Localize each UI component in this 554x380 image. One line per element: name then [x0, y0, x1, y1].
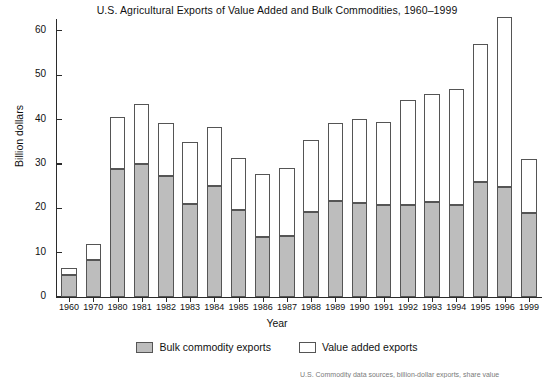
x-axis-line	[56, 297, 542, 298]
bar-segment-bulk-commodity[interactable]	[182, 204, 197, 297]
bar-segment-bulk-commodity[interactable]	[158, 176, 173, 297]
bar-group[interactable]	[424, 94, 439, 297]
legend-label: Bulk commodity exports	[159, 341, 270, 353]
bar-group[interactable]	[86, 244, 101, 297]
bar-segment-bulk-commodity[interactable]	[231, 210, 246, 297]
x-tick-label: 1985	[226, 302, 252, 312]
bar-segment-value-added[interactable]	[207, 127, 222, 186]
bar-segment-bulk-commodity[interactable]	[352, 203, 367, 297]
bar-segment-bulk-commodity[interactable]	[255, 237, 270, 297]
bar-segment-bulk-commodity[interactable]	[424, 202, 439, 297]
bar-segment-value-added[interactable]	[449, 89, 464, 205]
x-tick-label: 1981	[129, 302, 155, 312]
bar-segment-value-added[interactable]	[279, 168, 294, 236]
y-tick-label: 20	[0, 201, 46, 212]
bar-group[interactable]	[207, 127, 222, 297]
x-tick-label: 1983	[177, 302, 203, 312]
legend-swatch-value-added-icon	[299, 342, 316, 353]
bar-segment-bulk-commodity[interactable]	[449, 205, 464, 297]
source-note: U.S. Commodity data sources, billion-dol…	[300, 371, 554, 378]
bar-segment-value-added[interactable]	[86, 244, 101, 260]
bar-group[interactable]	[279, 168, 294, 297]
bar-segment-value-added[interactable]	[328, 123, 343, 201]
bar-group[interactable]	[376, 122, 391, 297]
x-tick-label: 1960	[56, 302, 82, 312]
chart-title: U.S. Agricultural Exports of Value Added…	[0, 4, 554, 16]
bar-group[interactable]	[497, 17, 512, 297]
bar-group[interactable]	[255, 174, 270, 297]
y-tick-label: 50	[0, 68, 46, 79]
chart-legend: Bulk commodity exportsValue added export…	[0, 341, 554, 353]
y-tick-label: 60	[0, 24, 46, 35]
bar-segment-value-added[interactable]	[61, 268, 76, 275]
plot-area	[57, 22, 541, 297]
x-tick-label: 1999	[516, 302, 542, 312]
bar-group[interactable]	[303, 140, 318, 297]
x-axis-title: Year	[0, 317, 554, 329]
bar-segment-value-added[interactable]	[473, 44, 488, 182]
bar-segment-bulk-commodity[interactable]	[303, 212, 318, 297]
legend-item[interactable]: Value added exports	[299, 341, 418, 353]
bar-segment-value-added[interactable]	[424, 94, 439, 202]
x-tick-label: 1986	[250, 302, 276, 312]
bar-segment-bulk-commodity[interactable]	[61, 275, 76, 297]
bar-group[interactable]	[158, 123, 173, 297]
bar-group[interactable]	[231, 158, 246, 297]
bar-segment-value-added[interactable]	[376, 122, 391, 205]
bar-segment-bulk-commodity[interactable]	[86, 260, 101, 297]
legend-label: Value added exports	[322, 341, 418, 353]
bar-segment-value-added[interactable]	[134, 104, 149, 164]
bar-segment-value-added[interactable]	[352, 119, 367, 204]
bar-group[interactable]	[400, 100, 415, 297]
bar-segment-bulk-commodity[interactable]	[497, 187, 512, 297]
bar-group[interactable]	[61, 268, 76, 297]
x-tick-label: 1993	[419, 302, 445, 312]
bar-segment-value-added[interactable]	[255, 174, 270, 237]
bar-segment-bulk-commodity[interactable]	[134, 164, 149, 297]
legend-item[interactable]: Bulk commodity exports	[136, 341, 270, 353]
bar-segment-value-added[interactable]	[231, 158, 246, 210]
bar-segment-bulk-commodity[interactable]	[473, 182, 488, 297]
bar-group[interactable]	[352, 119, 367, 297]
bar-segment-bulk-commodity[interactable]	[400, 205, 415, 297]
bar-group[interactable]	[521, 159, 536, 297]
bar-segment-value-added[interactable]	[521, 159, 536, 213]
bar-segment-bulk-commodity[interactable]	[279, 236, 294, 297]
bar-segment-bulk-commodity[interactable]	[328, 201, 343, 297]
legend-swatch-bulk-icon	[136, 342, 153, 353]
bar-group[interactable]	[328, 123, 343, 297]
x-tick-label: 1996	[492, 302, 518, 312]
bar-segment-bulk-commodity[interactable]	[110, 169, 125, 297]
y-tick-label: 0	[0, 290, 46, 301]
x-tick-label: 1992	[395, 302, 421, 312]
bar-segment-value-added[interactable]	[182, 142, 197, 204]
x-tick-label: 1987	[274, 302, 300, 312]
bar-group[interactable]	[134, 104, 149, 297]
x-tick-label: 1994	[443, 302, 469, 312]
bar-segment-bulk-commodity[interactable]	[376, 205, 391, 297]
x-tick-label: 1995	[468, 302, 494, 312]
bar-group[interactable]	[182, 142, 197, 297]
x-tick-label: 1989	[322, 302, 348, 312]
chart-container: U.S. Agricultural Exports of Value Added…	[0, 0, 554, 380]
x-tick-label: 1970	[80, 302, 106, 312]
x-tick-label: 1988	[298, 302, 324, 312]
y-axis-title: Billion dollars	[13, 81, 25, 191]
bar-group[interactable]	[449, 89, 464, 297]
x-tick-label: 1982	[153, 302, 179, 312]
bar-segment-bulk-commodity[interactable]	[521, 213, 536, 297]
bar-segment-bulk-commodity[interactable]	[207, 186, 222, 297]
x-tick-label: 1980	[105, 302, 131, 312]
bar-segment-value-added[interactable]	[303, 140, 318, 212]
x-tick-label: 1991	[371, 302, 397, 312]
x-tick-label: 1984	[201, 302, 227, 312]
bar-segment-value-added[interactable]	[158, 123, 173, 176]
bar-segment-value-added[interactable]	[497, 17, 512, 187]
y-tick-label: 10	[0, 246, 46, 257]
bar-segment-value-added[interactable]	[110, 117, 125, 168]
bar-segment-value-added[interactable]	[400, 100, 415, 206]
x-tick-label: 1990	[347, 302, 373, 312]
bar-group[interactable]	[110, 117, 125, 297]
bar-group[interactable]	[473, 44, 488, 297]
